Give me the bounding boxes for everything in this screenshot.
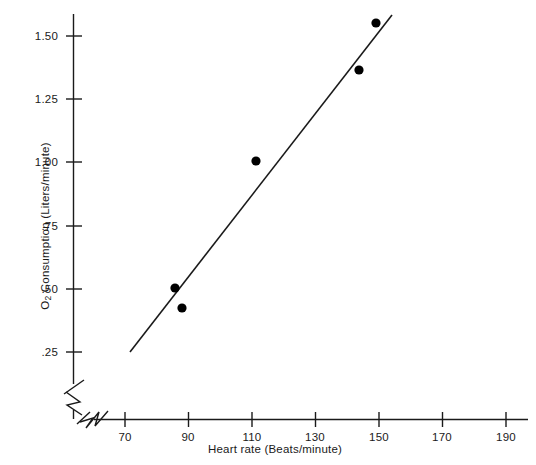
y-tick-label: 1.25 xyxy=(22,93,58,105)
x-axis-title: Heart rate (Beats/minute) xyxy=(208,443,342,455)
x-tick-label: 110 xyxy=(243,431,262,443)
x-tick-label: 190 xyxy=(496,431,516,443)
x-tick-label: 130 xyxy=(305,431,325,443)
data-point xyxy=(177,303,186,312)
scatter-chart: 1.50 1.25 1.00 .75 .50 .25 70 90 110 130… xyxy=(0,0,536,465)
x-tick-label: 70 xyxy=(118,431,131,443)
y-axis-title-suffix: Consumption (Liters/minute) xyxy=(39,142,51,295)
regression-line xyxy=(130,15,392,352)
x-tick-label: 150 xyxy=(369,431,389,443)
data-point xyxy=(354,65,363,74)
data-point xyxy=(251,156,260,165)
plot-area xyxy=(0,0,536,465)
x-tick-label: 90 xyxy=(181,431,194,443)
data-point xyxy=(170,283,179,292)
data-point xyxy=(371,18,380,27)
x-tick-label: 170 xyxy=(432,431,452,443)
y-tick-label: 1.50 xyxy=(22,30,58,42)
y-axis-title: O2 Consumption (Liters/minute) xyxy=(39,106,51,346)
y-axis-title-prefix: O xyxy=(39,301,51,310)
y-tick-label: .25 xyxy=(22,346,58,358)
y-axis-break-icon xyxy=(64,378,84,419)
y-axis-title-subscript: 2 xyxy=(43,296,53,301)
